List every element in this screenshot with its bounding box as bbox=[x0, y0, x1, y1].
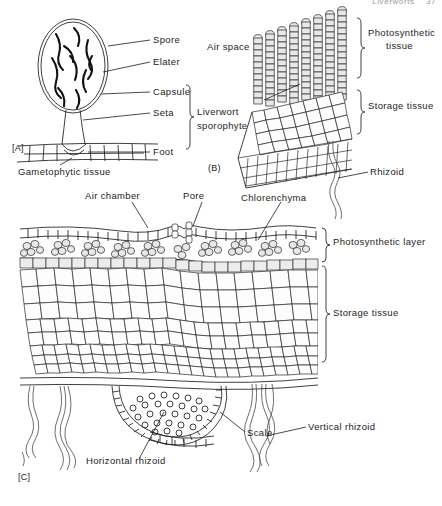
label-photosynthetic-tissue-line2: tissue bbox=[386, 40, 413, 51]
label-rhizoid: Rhizoid bbox=[370, 166, 404, 177]
bracket-storage-c bbox=[322, 266, 330, 362]
leader-scale bbox=[220, 412, 245, 432]
leader-air-chamber bbox=[132, 202, 148, 228]
botany-figure-liverwort-anatomy: Liverworts 37 bbox=[0, 0, 442, 506]
label-liverwort-sporophyte-line1: Liverwort bbox=[197, 106, 239, 117]
label-spore: Spore bbox=[153, 34, 180, 45]
leader-elater bbox=[103, 62, 150, 72]
label-elater: Elater bbox=[153, 56, 180, 67]
label-horizontal-rhizoid: Horizontal rhizoid bbox=[86, 455, 166, 466]
bracket-storage-b bbox=[357, 90, 365, 134]
label-seta: Seta bbox=[153, 107, 174, 118]
label-liverwort-sporophyte-line2: sporophyte bbox=[197, 120, 248, 131]
label-vertical-rhizoid: Vertical rhizoid bbox=[308, 421, 375, 432]
panel-b-artwork bbox=[238, 7, 368, 219]
label-gametophytic-tissue: Gametophytic tissue bbox=[18, 166, 111, 177]
bracket-photosynthetic-b bbox=[357, 18, 365, 78]
label-photosynthetic-tissue-line1: Photosynthetic bbox=[368, 27, 435, 38]
leader-pore bbox=[193, 202, 202, 226]
figure-artwork bbox=[0, 0, 442, 506]
panel-tag-c: [C] bbox=[18, 472, 30, 482]
leader-gametophytic bbox=[60, 158, 72, 165]
leader-capsule bbox=[101, 92, 150, 94]
label-air-space: Air space bbox=[207, 41, 250, 52]
label-pore: Pore bbox=[183, 190, 204, 201]
label-storage-tissue-c: Storage tissue bbox=[333, 307, 399, 318]
label-scale: Scale bbox=[247, 427, 273, 438]
label-photosynthetic-layer: Photosynthetic layer bbox=[333, 236, 426, 247]
label-chlorenchyma: Chlorenchyma bbox=[241, 192, 306, 203]
leader-spore bbox=[108, 40, 150, 46]
panel-tag-a: [A] bbox=[12, 143, 24, 153]
leader-seta bbox=[83, 113, 150, 120]
label-foot: Foot bbox=[153, 146, 173, 157]
leader-chlorenchyma bbox=[258, 202, 281, 240]
leader-rhizoid-b bbox=[338, 172, 368, 178]
label-capsule: Capsule bbox=[153, 86, 190, 97]
panel-c-artwork bbox=[20, 202, 330, 472]
label-air-chamber: Air chamber bbox=[85, 190, 140, 201]
label-storage-tissue-b: Storage tissue bbox=[368, 100, 434, 111]
panel-tag-b: (B) bbox=[208, 163, 221, 173]
bracket-photosynthetic-c bbox=[322, 228, 330, 262]
